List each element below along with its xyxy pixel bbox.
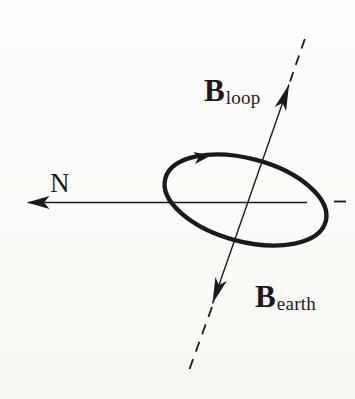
magnetic-field-diagram [0, 0, 355, 399]
north-label: N [50, 170, 70, 197]
b-loop-label: Bloop [204, 75, 261, 106]
axis-lines [28, 37, 346, 376]
b-earth-label: Bearth [255, 281, 316, 312]
field-axis-line [213, 85, 290, 304]
field-axis-dash-lower [187, 307, 212, 376]
b-loop-subscript: loop [226, 87, 261, 108]
b-earth-symbol: B [255, 279, 276, 314]
north-label-text: N [50, 168, 70, 198]
b-earth-subscript: earth [277, 293, 316, 314]
current-loop [155, 138, 337, 261]
field-axis-dash-upper [290, 37, 306, 82]
figure-canvas: N Bloop Bearth [0, 0, 355, 399]
b-loop-symbol: B [204, 73, 225, 108]
